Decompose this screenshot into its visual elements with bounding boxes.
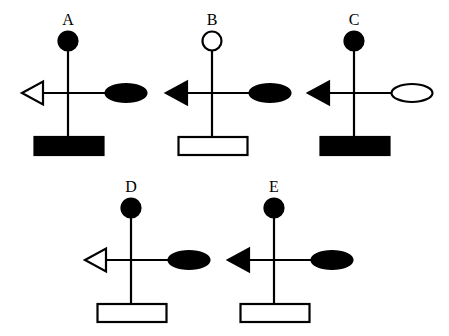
ellipse-icon [312, 251, 353, 269]
option-label: A [62, 11, 74, 28]
ellipse-icon [392, 84, 433, 102]
ellipse-icon [250, 84, 291, 102]
option-c: C [308, 11, 433, 155]
triangle-icon [166, 82, 187, 105]
option-a: A [22, 11, 147, 155]
option-label: D [125, 178, 137, 195]
option-label: C [349, 11, 360, 28]
option-label: B [207, 11, 218, 28]
triangle-icon [228, 249, 249, 272]
circle-icon [59, 32, 78, 51]
option-b: B [166, 11, 291, 155]
rectangle-icon [321, 137, 390, 155]
ellipse-icon [169, 251, 210, 269]
rectangle-icon [98, 304, 167, 322]
circle-icon [345, 32, 364, 51]
triangle-icon [22, 82, 43, 105]
ellipse-icon [106, 84, 147, 102]
diagram-canvas: ABCDE [0, 0, 449, 336]
option-label: E [269, 178, 279, 195]
circle-icon [203, 32, 222, 51]
rectangle-icon [241, 304, 310, 322]
circle-icon [122, 199, 141, 218]
option-e: E [228, 178, 353, 322]
option-d: D [85, 178, 210, 322]
rectangle-icon [179, 137, 248, 155]
rectangle-icon [35, 137, 104, 155]
circle-icon [265, 199, 284, 218]
triangle-icon [308, 82, 329, 105]
triangle-icon [85, 249, 106, 272]
